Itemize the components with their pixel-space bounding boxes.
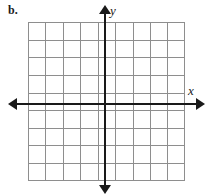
grid-line-horizontal [28, 93, 185, 94]
grid-line-vertical [184, 22, 185, 181]
y-axis-down-arrow-icon [99, 185, 111, 194]
grid-line-horizontal [28, 22, 185, 23]
grid-line-vertical [167, 22, 168, 181]
y-axis-line [104, 11, 106, 190]
grid-line-vertical [133, 22, 134, 181]
grid-line-horizontal [28, 128, 185, 129]
grid-line-horizontal [28, 40, 185, 41]
grid-line-vertical [28, 22, 29, 181]
coordinate-grid-figure: b. y x [0, 0, 206, 194]
grid-line-vertical [63, 22, 64, 181]
grid-line-horizontal [28, 57, 185, 58]
problem-label: b. [8, 3, 18, 17]
x-axis-line [14, 103, 198, 105]
grid-line-vertical [80, 22, 81, 181]
x-axis-right-arrow-icon [196, 98, 205, 110]
grid-line-vertical [45, 22, 46, 181]
grid-line-horizontal [28, 163, 185, 164]
y-axis-label: y [110, 4, 116, 18]
grid-line-horizontal [28, 145, 185, 146]
x-axis-left-arrow-icon [8, 98, 17, 110]
grid-line-vertical [115, 22, 116, 181]
grid-line-vertical [150, 22, 151, 181]
grid-line-horizontal [28, 180, 185, 181]
grid-line-horizontal [28, 110, 185, 111]
x-axis-label: x [188, 84, 194, 98]
grid-line-horizontal [28, 75, 185, 76]
grid-line-vertical [98, 22, 99, 181]
grid-area [28, 22, 185, 181]
